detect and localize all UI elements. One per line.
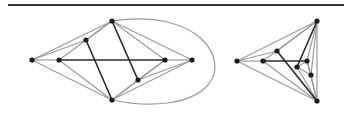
graph-node (274, 48, 279, 53)
graphs-layer (29, 18, 319, 104)
graph-node (109, 97, 114, 102)
graph-node (234, 58, 239, 63)
light-edge (237, 51, 277, 61)
light-edge (32, 21, 112, 60)
light-edge (138, 60, 192, 80)
graph-node (162, 57, 167, 62)
light-edge (237, 21, 317, 61)
left-graph (29, 18, 215, 104)
graph-node (83, 37, 88, 42)
light-edge (32, 40, 86, 60)
graph-node (314, 98, 319, 103)
dark-edge (86, 40, 112, 100)
graph-node (314, 18, 319, 23)
light-edge (32, 60, 112, 100)
graph-node (109, 18, 114, 23)
light-edge (86, 21, 112, 40)
graph-node (308, 72, 313, 77)
graph-node (56, 57, 61, 62)
graph-node (294, 64, 299, 69)
graph-node (189, 57, 194, 62)
graph-node (304, 58, 309, 63)
graph-node (29, 57, 34, 62)
light-edge (112, 21, 192, 60)
right-graph (234, 18, 319, 103)
graph-node (135, 77, 140, 82)
light-edge (138, 60, 165, 80)
graph-figure (0, 0, 344, 119)
light-edge (112, 80, 138, 100)
light-edge (112, 60, 192, 100)
graph-node (260, 58, 265, 63)
